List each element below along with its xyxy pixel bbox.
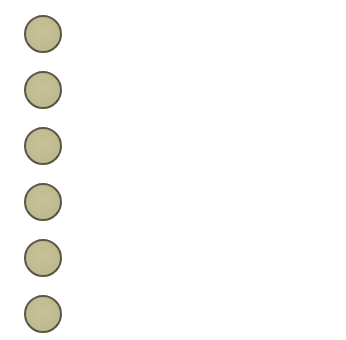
circle-dot-3 [24, 127, 62, 165]
circle-dot-2 [24, 71, 62, 109]
dot-column [24, 15, 62, 340]
circle-dot-5 [24, 239, 62, 277]
circle-dot-1 [24, 15, 62, 53]
circle-dot-6 [24, 295, 62, 333]
circle-dot-4 [24, 183, 62, 221]
blank-area [80, 0, 346, 340]
